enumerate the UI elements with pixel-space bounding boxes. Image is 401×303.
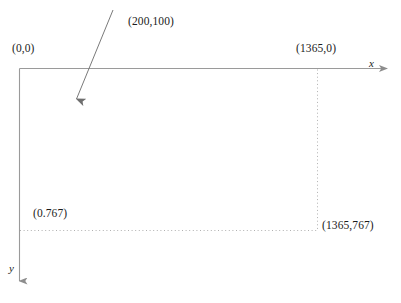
label-bottom-right: (1365,767) (322, 220, 374, 232)
coordinate-system-drawing (0, 0, 401, 303)
label-top-right: (1365,0) (296, 43, 336, 55)
label-origin: (0,0) (12, 43, 35, 55)
label-bottom-left: (0.767) (33, 208, 67, 220)
diagram-canvas: (0,0) (1365,0) (0.767) (1365,767) (200,1… (0, 0, 401, 303)
label-x-axis: x (369, 58, 374, 69)
label-y-axis: y (9, 263, 14, 274)
annotation-pointer-arrow (77, 10, 114, 99)
label-pointer-coordinate: (200,100) (128, 16, 174, 28)
